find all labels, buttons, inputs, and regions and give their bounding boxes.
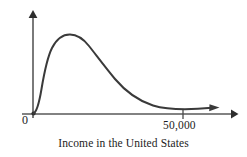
x-axis-tick-label-50000: 50,000 — [163, 120, 196, 132]
origin-axis-label: 0 — [22, 114, 28, 126]
x-axis-arrowhead — [231, 110, 239, 119]
curve-tail-arrowhead — [209, 104, 219, 111]
plot-area — [0, 0, 247, 157]
income-distribution-curve — [34, 35, 213, 114]
income-distribution-figure: 0 50,000 Income in the United States — [0, 0, 247, 157]
figure-caption: Income in the United States — [0, 137, 247, 150]
y-axis-arrowhead — [29, 10, 38, 18]
